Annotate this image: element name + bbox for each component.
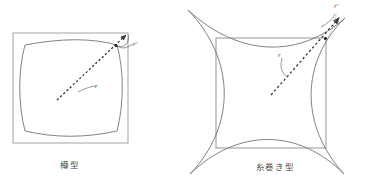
barrel-r-outer-leader bbox=[117, 35, 129, 47]
panel-barrel bbox=[13, 33, 133, 143]
pincushion-distorted-outline bbox=[188, 10, 345, 174]
pincushion-label-r-inner: r bbox=[278, 51, 281, 59]
barrel-label-r-inner: r bbox=[95, 82, 98, 90]
pincushion-label-r-outer: r' bbox=[334, 2, 338, 10]
caption-pincushion: 糸巻き型 bbox=[205, 160, 345, 172]
barrel-r-inner-leader bbox=[78, 86, 96, 92]
barrel-r-outer-leader-tail bbox=[117, 44, 133, 48]
barrel-distorted-point-dot bbox=[115, 44, 118, 47]
caption-barrel: 樽型 bbox=[0, 158, 140, 170]
pincushion-reference-square bbox=[216, 38, 326, 148]
panel-pincushion bbox=[188, 10, 345, 174]
distortion-figure: r' r r' r 樽型 糸巻き型 bbox=[0, 0, 365, 185]
pincushion-r-inner-leader bbox=[281, 58, 286, 76]
barrel-distorted-outline bbox=[20, 40, 123, 137]
pincushion-radius-arrow bbox=[271, 18, 339, 95]
barrel-label-r-outer: r' bbox=[133, 40, 137, 48]
